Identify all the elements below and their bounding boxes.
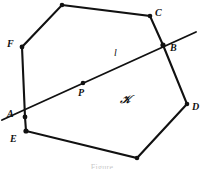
vertex-dot-bottom [135, 156, 140, 161]
vertex-dot-a [23, 115, 28, 120]
vertex-label-f: F [7, 39, 14, 49]
geometry-diagram [0, 0, 204, 169]
vertex-label-d: D [192, 102, 199, 112]
vertex-dot-c [148, 14, 153, 19]
vertex-label-c: C [155, 8, 162, 18]
point-dot-p [81, 81, 86, 86]
vertex-dot-b [160, 42, 165, 47]
vertex-label-a: A [7, 109, 14, 119]
vertex-dot-d [185, 102, 190, 107]
figure-canvas: F A E C B D P l 𝒦 Figure [0, 0, 204, 169]
vertex-dot-e [23, 128, 28, 133]
vertex-dot-top [60, 3, 65, 8]
polygon-shape [22, 5, 187, 158]
region-label-k: 𝒦 [119, 94, 130, 105]
vertex-dot-f [20, 45, 25, 50]
point-label-p: P [78, 88, 84, 98]
vertex-label-b: B [170, 43, 177, 53]
line-label-l: l [114, 48, 117, 58]
vertex-label-e: E [10, 134, 17, 144]
figure-caption: Figure [0, 163, 204, 169]
